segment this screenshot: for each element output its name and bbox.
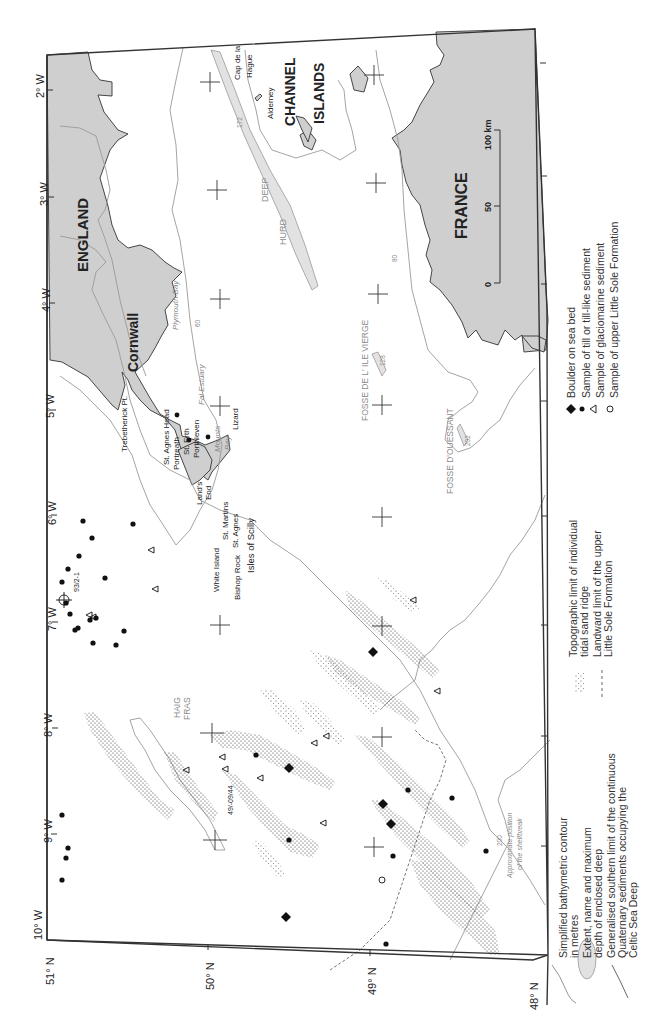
label-shelfbreak-2: of the shelfbreak: [516, 818, 523, 870]
label-channel: CHANNEL: [282, 57, 298, 126]
lon-label-10w: 10° W: [32, 909, 44, 940]
label-end: End: [204, 486, 213, 500]
lat-label-48n: 48° N: [528, 982, 540, 1010]
label-alderney: Alderney: [266, 87, 275, 119]
label-contour-200: 200: [496, 835, 503, 846]
label-sample-93-2-1: 93/2-1: [73, 572, 80, 592]
label-isles-of-scilly: Isles of Scilly: [245, 518, 256, 573]
scale-label-50: 50: [483, 202, 493, 212]
celtic-sea-map: 2° W 3° W 4° W 5° W 6° W 7° W 8° W 9° W …: [0, 0, 668, 1028]
label-lands: Land's: [195, 482, 204, 505]
label-england: ENGLAND: [74, 198, 91, 272]
label-portreath: Portreath: [172, 437, 181, 470]
legend-triangle-icon: [590, 405, 596, 413]
lon-label-3w: 3° W: [38, 181, 50, 206]
legend-text-landward-2: Little Sole Formation: [602, 561, 614, 657]
lon-label-6w: 6° W: [46, 500, 58, 525]
legend-southern-limit-symbol: [612, 965, 628, 998]
label-depth-128: 128: [379, 355, 386, 366]
legend-text-deep-2: depth of enclosed deep: [592, 849, 604, 958]
legend-text-little-sole: Sample of upper Little Sole Formation: [608, 222, 620, 398]
label-fosse-ile-vierge: FOSSE DE L' ILE VIERGE: [360, 319, 370, 421]
label-bay: Bay: [223, 435, 232, 450]
alderney-island: [255, 94, 262, 101]
legend-text-contour-2: in metres: [568, 915, 580, 958]
legend-open-circle-icon: [607, 406, 613, 412]
label-trebetherick: Trebetherick Pt.: [120, 396, 129, 452]
lon-label-2w: 2° W: [34, 73, 46, 98]
label-fal-estuary: Fal Estuary: [197, 364, 206, 405]
label-fosse-ouessant: FOSSE D'OUESSANT: [445, 408, 455, 494]
label-contour-60: 60: [194, 319, 201, 327]
legend-text-limit-3: Celtic Sea Deep: [627, 882, 639, 958]
label-plymouth-bay: Plymouth Bay: [171, 280, 180, 330]
lon-label-8w: 8° W: [42, 712, 54, 737]
label-bishop-rock: Bishop Rock: [233, 554, 242, 600]
sark-island: [350, 66, 368, 92]
legend-text-boulder: Boulder on sea bed: [565, 307, 577, 398]
legend-dot-icon: [580, 407, 585, 412]
lon-label-7w: 7° W: [46, 606, 58, 631]
hurd-deep: [211, 50, 318, 290]
label-white-island: White Island: [212, 548, 221, 592]
label-cornwall: Cornwall: [125, 313, 141, 372]
label-haig: HAIG: [172, 697, 182, 718]
label-st-agnes-head: St. Agnes Head: [162, 409, 171, 465]
legend-diamond-icon: [566, 404, 576, 414]
lat-label-50n: 50° N: [204, 962, 216, 990]
label-france: FRANCE: [453, 172, 470, 239]
label-st-agnes: St. Agnes: [231, 514, 240, 548]
contour-channel-islands: [245, 50, 356, 160]
legend-sand-ridge-symbol: [574, 672, 584, 692]
label-hague: Hague: [245, 54, 254, 78]
label-fras: FRAS: [182, 697, 192, 720]
lon-label-4w: 4° W: [40, 287, 52, 312]
label-deep-text: DEEP: [260, 177, 270, 202]
label-st-martins: St. Martins: [221, 502, 230, 540]
scale-label-100km: 100 km: [483, 119, 493, 150]
label-shelfbreak-1: Approximate position: [506, 813, 514, 879]
label-mounts: Mounts: [213, 426, 222, 452]
label-depth-202: 202: [464, 435, 471, 446]
label-porthleven: Porthleven: [192, 420, 201, 458]
legend-contour-symbol: [552, 965, 576, 1003]
label-cap-de-la: Cap de la: [233, 45, 242, 80]
label-depth-172: 172: [236, 117, 243, 128]
lat-label-49n: 49° N: [366, 967, 378, 995]
lon-label-5w: 5° W: [44, 393, 56, 418]
scale-label-0: 0: [483, 282, 493, 287]
label-islands: ISLANDS: [311, 63, 327, 124]
latitude-labels: 51° N 50° N 49° N 48° N: [44, 957, 540, 1010]
label-hurd: HURD: [278, 219, 288, 245]
lon-label-9w: 9° W: [42, 818, 54, 843]
label-contour-80: 80: [391, 254, 398, 262]
label-lizard: Lizard: [231, 408, 240, 430]
label-sample-49-09-44: 49/-09/44: [227, 785, 234, 815]
lat-label-51n: 51° N: [44, 957, 56, 985]
legend: Simplified bathymetric contour in metres…: [552, 222, 639, 1003]
legend-text-till: Sample of till or till-like sediment: [580, 248, 592, 398]
label-st-erth: St. Erth: [182, 428, 191, 455]
legend-text-glaciomarine: Sample of glaciomarine sediment: [594, 243, 606, 398]
legend-text-ridge-2: tidal sand ridge: [578, 586, 590, 657]
